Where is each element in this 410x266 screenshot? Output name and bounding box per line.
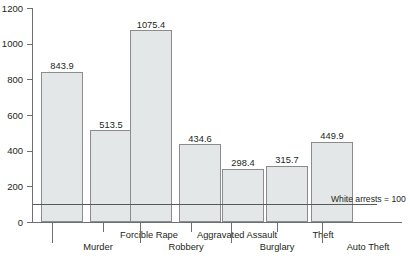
y-axis-tick-label: 1200 bbox=[2, 4, 23, 14]
reference-line bbox=[33, 204, 377, 205]
y-axis-tick: 600 bbox=[27, 115, 33, 116]
bar[interactable]: 298.4 bbox=[222, 169, 264, 222]
y-axis-tick-label: 0 bbox=[18, 218, 23, 228]
category-tick bbox=[191, 223, 192, 232]
x-axis-line bbox=[33, 222, 402, 223]
bar-value-label: 1075.4 bbox=[137, 21, 165, 30]
bar-value-label: 449.9 bbox=[320, 132, 343, 141]
category-label: Forcible Rape bbox=[120, 231, 178, 240]
y-axis-tick: 400 bbox=[27, 151, 33, 152]
chart-figure: 020040060080010001200 843.9513.51075.443… bbox=[0, 0, 410, 266]
bar[interactable]: 434.6 bbox=[179, 144, 221, 222]
bar-value-label: 298.4 bbox=[231, 159, 254, 168]
bar-value-label: 434.6 bbox=[188, 135, 211, 144]
y-axis-tick-label: 800 bbox=[7, 75, 23, 85]
category-tick bbox=[322, 223, 323, 243]
y-axis-tick-label: 600 bbox=[7, 111, 23, 121]
figure-caption bbox=[0, 259, 410, 266]
bar[interactable]: 315.7 bbox=[266, 166, 308, 222]
bar[interactable]: 843.9 bbox=[41, 72, 83, 222]
category-label: Robbery bbox=[168, 243, 203, 252]
category-tick bbox=[140, 223, 141, 243]
bar[interactable]: 1075.4 bbox=[130, 30, 172, 222]
category-tick bbox=[277, 223, 278, 232]
category-label: Auto Theft bbox=[347, 243, 390, 252]
bar[interactable]: 513.5 bbox=[90, 130, 132, 222]
category-label: Theft bbox=[312, 231, 333, 240]
bar-value-label: 315.7 bbox=[275, 156, 298, 165]
y-axis-tick-label: 400 bbox=[7, 146, 23, 156]
category-tick bbox=[52, 223, 53, 243]
y-axis-tick-label: 1000 bbox=[2, 39, 23, 49]
category-tick bbox=[231, 223, 232, 243]
y-axis-tick: 200 bbox=[27, 186, 33, 187]
bar-value-label: 843.9 bbox=[50, 62, 73, 71]
bar[interactable]: 449.9 bbox=[311, 142, 353, 222]
y-axis-tick: 1200 bbox=[27, 8, 33, 9]
category-label: Aggravated Assault bbox=[197, 231, 277, 240]
category-label: Burglary bbox=[260, 243, 295, 252]
reference-line-label: White arrests = 100 bbox=[331, 195, 406, 204]
category-label: Murder bbox=[83, 243, 112, 252]
y-axis-tick: 0 bbox=[27, 222, 33, 223]
y-axis-tick: 800 bbox=[27, 79, 33, 80]
bar-value-label: 513.5 bbox=[99, 121, 122, 130]
y-axis-tick-label: 200 bbox=[7, 182, 23, 192]
y-axis-tick: 1000 bbox=[27, 44, 33, 45]
category-tick bbox=[103, 223, 104, 232]
